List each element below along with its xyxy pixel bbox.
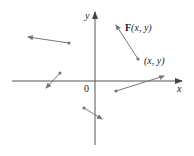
base-point-dot	[136, 57, 139, 60]
field-label: F(x, y)	[125, 23, 152, 33]
arrow-shaft	[28, 37, 69, 43]
base-point-dot	[82, 106, 85, 109]
vector-arrow	[82, 106, 102, 119]
arrow-shaft	[84, 108, 102, 119]
vector-arrow	[28, 37, 71, 45]
base-point-dot	[58, 71, 61, 74]
vector-arrows	[28, 25, 164, 119]
base-point-dot	[67, 41, 70, 44]
arrow-shaft	[116, 76, 164, 91]
x-axis-label: x	[177, 84, 181, 94]
field-label-args: (x, y)	[131, 22, 152, 33]
base-point-dot	[114, 89, 117, 92]
vector-arrow	[114, 76, 164, 93]
vector-field-diagram	[0, 0, 194, 156]
y-axis-label: y	[85, 11, 89, 21]
point-label: (x, y)	[144, 56, 165, 66]
vector-arrow	[46, 71, 62, 88]
origin-label: 0	[84, 84, 89, 94]
